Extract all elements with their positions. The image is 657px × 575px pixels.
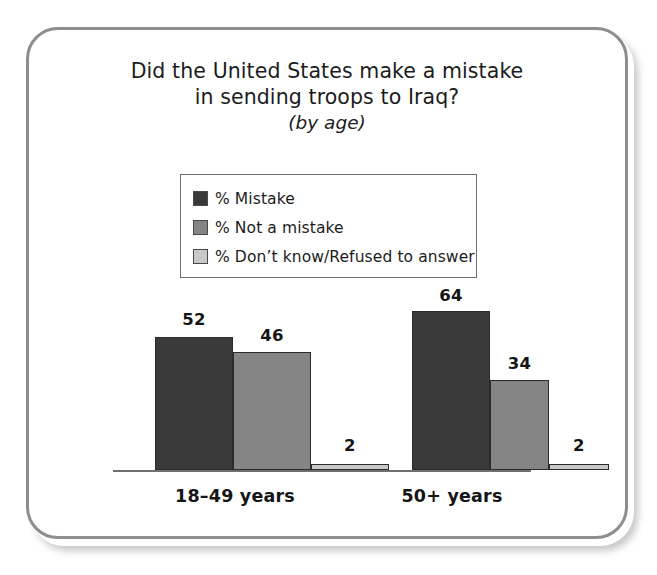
chart-title-line-1: Did the United States make a mistake	[56, 58, 598, 84]
bar-value-group2-not-a-mistake: 34	[490, 354, 549, 373]
x-axis-baseline	[113, 470, 531, 472]
legend-swatch-mistake	[193, 191, 208, 206]
legend-item-mistake: % Mistake	[193, 184, 476, 213]
legend-item-dont-know: % Don’t know/Refused to answer	[193, 242, 476, 271]
plot-area: 52 46 2 64 34 2	[113, 300, 533, 472]
bar-group1-mistake	[155, 337, 233, 470]
chart-subtitle: (by age)	[56, 110, 598, 135]
bar-group2-dont-know	[549, 464, 609, 470]
legend-item-not-a-mistake: % Not a mistake	[193, 213, 476, 242]
legend-label-dont-know: % Don’t know/Refused to answer	[215, 248, 475, 266]
bar-value-group1-mistake: 52	[155, 310, 233, 329]
bar-group2-not-a-mistake	[490, 380, 549, 470]
bar-group1-dont-know	[311, 464, 389, 470]
bar-value-group2-mistake: 64	[412, 286, 490, 305]
x-axis-label-50-plus: 50+ years	[372, 486, 532, 506]
bar-group1-not-a-mistake	[233, 352, 311, 470]
x-axis-label-18-49: 18–49 years	[155, 486, 315, 506]
legend-label-not-a-mistake: % Not a mistake	[215, 219, 344, 237]
chart-title-line-2: in sending troops to Iraq?	[56, 84, 598, 110]
bar-value-group1-dont-know: 2	[311, 436, 389, 455]
chart-title-block: Did the United States make a mistake in …	[56, 58, 598, 135]
chart-legend: % Mistake % Not a mistake % Don’t know/R…	[180, 174, 477, 278]
figure-page: Did the United States make a mistake in …	[0, 0, 657, 575]
bar-value-group1-not-a-mistake: 46	[233, 326, 311, 345]
legend-swatch-dont-know	[193, 249, 208, 264]
bar-value-group2-dont-know: 2	[549, 436, 609, 455]
legend-label-mistake: % Mistake	[215, 190, 295, 208]
legend-swatch-not-a-mistake	[193, 220, 208, 235]
bar-group2-mistake	[412, 311, 490, 470]
